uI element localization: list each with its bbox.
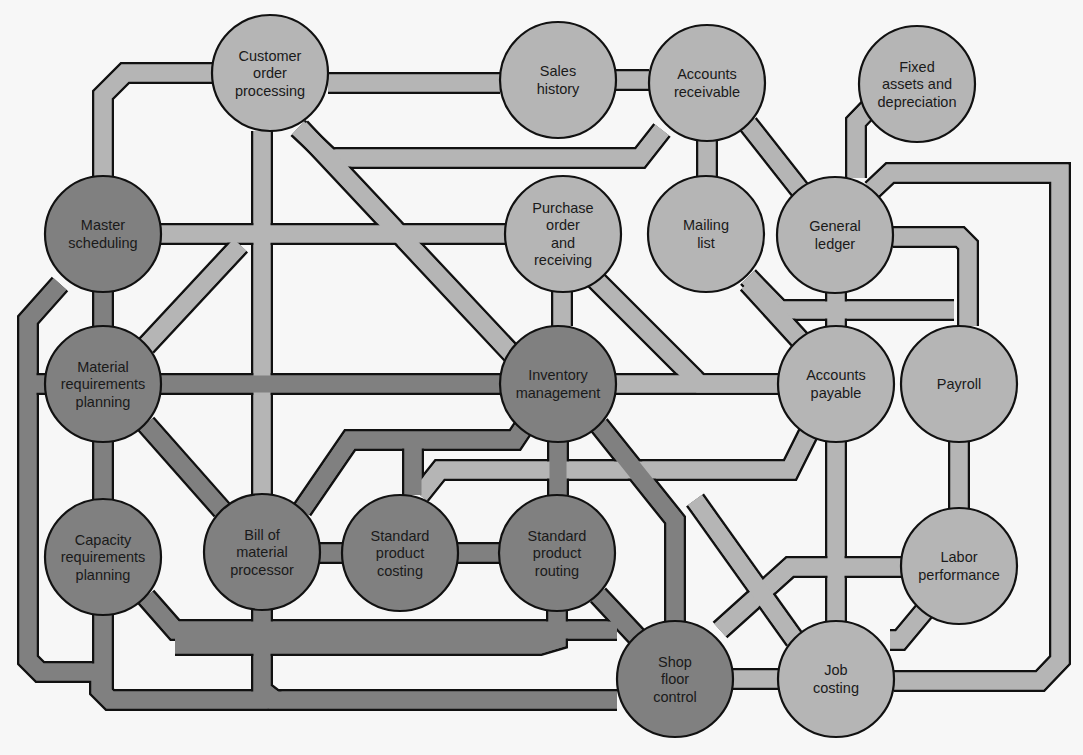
node-label: list — [697, 235, 715, 251]
node-label: scheduling — [68, 235, 137, 251]
pipe-fill — [748, 124, 800, 190]
node-label: routing — [535, 563, 579, 579]
node-label: management — [516, 385, 601, 401]
node-label: depreciation — [878, 94, 957, 110]
node-capacity-requirements: Capacityrequirementsplanning — [45, 499, 161, 615]
node-label: Purchase — [532, 200, 593, 216]
node-general-ledger: Generalledger — [777, 177, 893, 293]
node-label: Sales — [540, 63, 576, 79]
node-mailing-list: Mailinglist — [648, 176, 764, 292]
node-customer-order: Customerorderprocessing — [212, 15, 328, 131]
pipe-fill — [298, 128, 662, 158]
node-label: requirements — [61, 549, 146, 565]
node-bill-of-material: Bill ofmaterialprocessor — [204, 494, 320, 610]
node-payroll: Payroll — [901, 326, 1017, 442]
node-label: Inventory — [528, 367, 588, 383]
node-label: product — [376, 545, 424, 561]
node-label: product — [533, 545, 581, 561]
node-label: requirements — [61, 376, 146, 392]
node-label: Labor — [940, 549, 977, 565]
node-label: history — [537, 81, 580, 97]
node-standard-costing: Standardproductcosting — [342, 495, 458, 611]
node-label: Material — [77, 359, 129, 375]
node-label: Payroll — [937, 376, 981, 392]
node-label: and — [551, 235, 575, 251]
node-label: material — [236, 544, 288, 560]
node-master-scheduling: Masterscheduling — [45, 176, 161, 292]
node-label: order — [253, 65, 287, 81]
node-label: planning — [76, 567, 131, 583]
node-label: performance — [918, 567, 999, 583]
node-sales-history: Saleshistory — [500, 22, 616, 138]
node-label: ledger — [815, 236, 855, 252]
node-label: Standard — [528, 528, 587, 544]
node-label: Job — [824, 662, 847, 678]
node-accounts-payable: Accountspayable — [778, 326, 894, 442]
node-label: order — [546, 217, 580, 233]
node-label: assets and — [882, 76, 952, 92]
node-label: Mailing — [683, 217, 729, 233]
node-label: Standard — [371, 528, 430, 544]
node-label: receiving — [534, 252, 592, 268]
node-accounts-receivable: Accountsreceivable — [649, 25, 765, 141]
node-label: General — [809, 218, 861, 234]
node-label: Customer — [239, 48, 302, 64]
node-label: costing — [377, 563, 423, 579]
node-label: Capacity — [75, 532, 132, 548]
node-label: floor — [661, 671, 689, 687]
information-system-diagram: CustomerorderprocessingSaleshistoryAccou… — [0, 0, 1083, 755]
node-label: payable — [811, 385, 862, 401]
node-label: Shop — [658, 654, 692, 670]
node-label: costing — [813, 680, 859, 696]
node-inventory-management: Inventorymanagement — [500, 326, 616, 442]
node-fixed-assets: Fixedassets anddepreciation — [859, 26, 975, 142]
node-label: Accounts — [806, 367, 866, 383]
node-job-costing: Jobcosting — [778, 621, 894, 737]
node-shop-floor-control: Shopfloorcontrol — [617, 621, 733, 737]
node-purchase-order: Purchaseorderandreceiving — [505, 176, 621, 292]
connection-pipe — [599, 425, 675, 621]
node-label: processor — [230, 562, 294, 578]
pipe-fill — [103, 73, 212, 176]
node-label: Master — [81, 217, 125, 233]
node-labor-performance: Laborperformance — [901, 508, 1017, 624]
node-standard-routing: Standardproductrouting — [499, 495, 615, 611]
node-label: receivable — [674, 84, 740, 100]
node-material-requirements: Materialrequirementsplanning — [45, 326, 161, 442]
node-label: Fixed — [899, 59, 934, 75]
node-label: Accounts — [677, 66, 737, 82]
node-label: planning — [76, 394, 131, 410]
node-label: processing — [235, 83, 305, 99]
pipe-fill — [146, 245, 240, 346]
node-label: control — [653, 689, 697, 705]
pipe-fill — [146, 424, 222, 510]
node-label: Bill of — [244, 527, 280, 543]
